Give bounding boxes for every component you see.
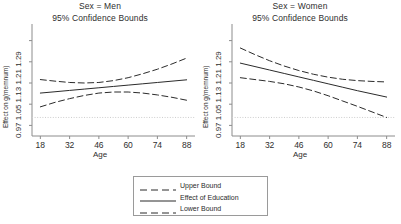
svg-text:74: 74 <box>353 140 363 150</box>
svg-text:60: 60 <box>123 140 133 150</box>
legend-label-lower-bound: Lower Bound <box>177 205 221 212</box>
svg-text:32: 32 <box>65 140 75 150</box>
svg-text:88: 88 <box>382 140 392 150</box>
panel-women-xlabel: Age <box>200 150 400 159</box>
legend-label-effect-of-education: Effect of Education <box>177 194 239 201</box>
legend-key-dashed-upper <box>139 181 177 191</box>
legend-item-lower-bound: Lower Bound <box>139 203 262 215</box>
panel-men: Sex = Men 95% Confidence Bounds Effect o… <box>0 0 200 166</box>
svg-text:46: 46 <box>294 140 304 150</box>
legend-key-dashed-lower <box>139 204 177 214</box>
svg-text:18: 18 <box>36 140 46 150</box>
legend-label-upper-bound: Upper Bound <box>177 182 221 189</box>
panel-women-plot: 183246607488 <box>200 0 400 166</box>
panel-men-plot: 183246607488 <box>0 0 200 166</box>
svg-text:46: 46 <box>94 140 104 150</box>
svg-text:60: 60 <box>323 140 333 150</box>
panel-men-xlabel: Age <box>0 150 200 159</box>
svg-text:18: 18 <box>236 140 246 150</box>
panels-row: Sex = Men 95% Confidence Bounds Effect o… <box>0 0 401 166</box>
legend-box: Upper Bound Effect of Education Lower Bo… <box>133 176 268 216</box>
legend-area: Upper Bound Effect of Education Lower Bo… <box>0 166 401 224</box>
svg-text:32: 32 <box>265 140 275 150</box>
svg-text:88: 88 <box>182 140 192 150</box>
panel-women: Sex = Women 95% Confidence Bounds Effect… <box>200 0 400 166</box>
svg-text:74: 74 <box>153 140 163 150</box>
figure-container: Sex = Men 95% Confidence Bounds Effect o… <box>0 0 401 224</box>
legend-key-solid-effect <box>139 192 177 202</box>
legend-item-effect: Effect of Education <box>139 192 262 204</box>
legend-item-upper-bound: Upper Bound <box>139 180 262 192</box>
